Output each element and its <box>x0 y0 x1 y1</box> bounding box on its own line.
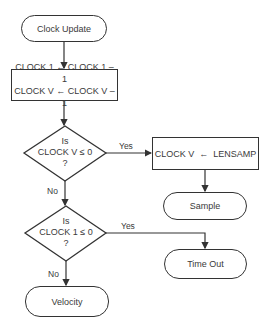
decision-1-line-2: CLOCK 1 ≤ 0 <box>31 227 101 238</box>
reset-clock-v-box: CLOCK V ← LENSAMP <box>152 137 259 170</box>
timeout-terminator: Time Out <box>164 249 247 279</box>
decision-v-text: Is CLOCK V ≤ 0 ? <box>30 136 100 169</box>
start-label: Clock Update <box>37 23 91 35</box>
decision-1-line-3: ? <box>31 238 101 249</box>
decision-v-yes-label: Yes <box>119 141 133 151</box>
decision-1-text: Is CLOCK 1 ≤ 0 ? <box>31 216 101 249</box>
decision-1-yes-label: Yes <box>121 221 135 231</box>
decrement-line-1: CLOCK 1 ← CLOCK 1 – 1 <box>12 61 117 85</box>
sample-terminator: Sample <box>163 192 247 220</box>
decision-v-line-1: Is <box>30 136 100 147</box>
decision-1-no-label: No <box>48 269 59 279</box>
decrement-process-box: CLOCK 1 ← CLOCK 1 – 1 CLOCK V ← CLOCK V … <box>11 69 118 101</box>
decrement-line-2: CLOCK V ← CLOCK V – 1 <box>12 85 117 109</box>
timeout-label: Time Out <box>187 258 224 270</box>
velocity-label: Velocity <box>51 296 82 308</box>
velocity-terminator: Velocity <box>25 286 109 317</box>
decision-1-line-1: Is <box>31 216 101 227</box>
decision-v-line-3: ? <box>30 158 100 169</box>
start-terminator: Clock Update <box>21 15 107 42</box>
decision-v-line-2: CLOCK V ≤ 0 <box>30 147 100 158</box>
reset-clock-v-label: CLOCK V ← LENSAMP <box>155 148 257 160</box>
decision-v-no-label: No <box>47 186 58 196</box>
sample-label: Sample <box>190 200 221 212</box>
